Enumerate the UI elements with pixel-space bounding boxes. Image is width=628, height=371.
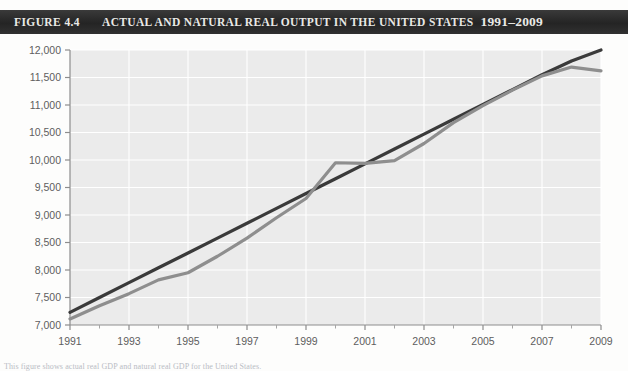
x-axis-tick-label: 2007 [530,335,554,347]
y-axis-tick-label: 7,000 [35,319,61,331]
x-axis-tick-label: 1993 [117,335,141,347]
x-axis-tick-label: 1999 [294,335,318,347]
y-axis-tick-label: 7,500 [35,291,61,303]
figure-caption: This figure shows actual real GDP and na… [4,363,261,371]
y-axis-tick-label: 12,000 [29,44,61,56]
figure-year-range: 1991–2009 [480,14,543,30]
figure-title-bar: Figure 4.4 Actual and Natural Real Outpu… [0,10,628,34]
y-axis-tick-label: 8,000 [35,264,61,276]
x-axis-ticks [70,325,601,330]
y-axis-tick-label: 8,500 [35,236,61,248]
chart-area: 7,0007,5008,0008,5009,0009,50010,00010,5… [0,34,628,364]
x-axis-tick-label: 2001 [353,335,377,347]
y-axis-ticks [65,50,70,325]
x-axis-labels: 1991199319951997199920012003200520072009 [58,335,613,347]
line-chart: 7,0007,5008,0008,5009,0009,50010,00010,5… [0,34,628,364]
x-axis-tick-label: 1995 [176,335,200,347]
x-axis-tick-label: 1991 [58,335,82,347]
y-axis-tick-label: 11,000 [30,99,61,111]
figure-caption-strip: This figure shows actual real GDP and na… [0,363,628,371]
figure-title-bar-inner: Figure 4.4 Actual and Natural Real Outpu… [14,10,543,34]
figure-container: Figure 4.4 Actual and Natural Real Outpu… [0,0,628,371]
x-axis-tick-label: 2005 [471,335,495,347]
page-title: Actual and Natural Real Output in the Un… [102,16,473,28]
y-axis-tick-label: 9,500 [35,181,61,193]
y-axis-tick-label: 10,500 [29,126,61,138]
y-axis-labels: 7,0007,5008,0008,5009,0009,50010,00010,5… [29,44,61,331]
y-axis-tick-label: 11,500 [30,71,61,83]
x-axis-tick-label: 1997 [235,335,259,347]
y-axis-tick-label: 9,000 [35,209,61,221]
x-axis-tick-label: 2009 [589,335,613,347]
y-axis-tick-label: 10,000 [29,154,61,166]
x-axis-tick-label: 2003 [412,335,436,347]
figure-number: Figure 4.4 [14,16,80,28]
